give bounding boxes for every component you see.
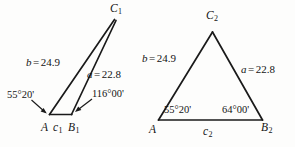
side-a-letter: a [87,68,93,80]
side-b-value-2: 24.9 [157,52,176,64]
triangle-2-vertex-C2-label: C2 [206,10,218,23]
vertex-C1-letter: C [110,2,118,14]
triangle-1-vertex-C1-label: C1 [110,3,122,16]
vertex-B1-letter: B [68,121,75,133]
triangle-2-side-b-label: b=24.9 [142,53,176,64]
triangle-2-angle-B2-label: 64°00' [222,105,249,116]
triangle-2-angle-A-label: 55°20' [164,105,191,116]
vertex-B1-subscript: 1 [75,126,79,135]
triangle-1-angle-A-label: 55°20' [7,90,34,101]
side-b-value: 24.9 [41,56,60,68]
side-a-equals-2: = [247,63,256,75]
triangle-1-vertex-B1-label: B1 [68,122,79,135]
triangle-1-vertex-A-label: A [41,122,48,134]
vertex-C1-subscript: 1 [118,7,122,16]
triangle-1-side-a-label: a=22.8 [87,69,121,80]
triangle-1-side-b-label: b=24.9 [26,57,60,68]
triangle-1-angle-A-leader-arrow [32,100,47,114]
side-a-letter-2: a [241,63,247,75]
side-b-equals: = [32,56,41,68]
vertex-C2-letter: C [206,9,214,21]
side-c1-subscript: 1 [58,126,62,135]
side-a-value-2: 22.8 [256,63,275,75]
vertex-B2-subscript: 2 [268,126,272,135]
side-b-letter-2: b [142,52,148,64]
triangle-2-vertex-B2-label: B2 [261,122,272,135]
triangle-2-vertex-A-label: A [149,124,156,136]
triangle-1-side-c-label: c1 [53,122,63,135]
geometry-figure: C1 b=24.9 a=22.8 55°20' 116°00' A c1 B1 … [0,0,295,147]
triangle-2-side-c-label: c2 [203,126,213,139]
vertex-C2-subscript: 2 [214,14,218,23]
triangle-2-side-a-label: a=22.8 [241,64,275,75]
vertex-B2-letter: B [261,121,268,133]
triangle-1-angle-B1-label: 116°00' [92,89,124,100]
side-b-letter: b [26,56,32,68]
side-a-value: 22.8 [102,68,121,80]
side-a-equals: = [93,68,102,80]
side-b-equals-2: = [148,52,157,64]
side-c2-subscript: 2 [208,130,212,139]
